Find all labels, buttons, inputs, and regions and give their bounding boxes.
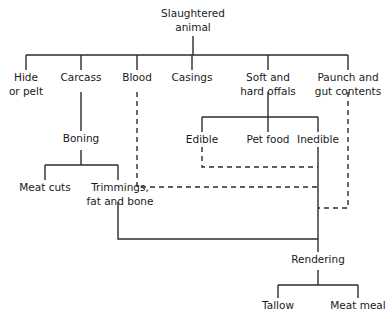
node-offals-line1: Soft and bbox=[246, 71, 290, 83]
edge-trimmings-to-rendering bbox=[118, 202, 318, 239]
node-boning-label: Boning bbox=[63, 132, 100, 144]
node-paunch-and-gut-contents: Paunch and gut contents bbox=[315, 71, 381, 97]
node-hide-or-pelt: Hide or pelt bbox=[9, 71, 43, 97]
node-paunch-line2: gut contents bbox=[315, 85, 381, 97]
node-rendering-label: Rendering bbox=[291, 253, 345, 265]
edge-group-blood-to-rendering bbox=[137, 92, 318, 187]
node-meat-meal: Meat meal bbox=[330, 299, 385, 311]
edge-paunch-dashed-to-rendering bbox=[318, 92, 348, 208]
node-carcass: Carcass bbox=[60, 71, 101, 83]
node-slaughtered-animal-line1: Slaughtered bbox=[161, 7, 225, 19]
node-trimmings-fat-and-bone: Trimmings, fat and bone bbox=[87, 181, 154, 207]
flowchart-diagram: Slaughtered animal Hide or pelt Carcass … bbox=[0, 0, 392, 319]
edge-edible-dashed-to-rendering bbox=[202, 147, 318, 167]
edge-group-trimmings-to-rendering bbox=[118, 202, 318, 239]
node-pet-food-label: Pet food bbox=[246, 133, 289, 145]
node-inedible: Inedible bbox=[297, 133, 339, 145]
node-trimmings-line1: Trimmings, bbox=[90, 181, 149, 193]
node-carcass-label: Carcass bbox=[60, 71, 101, 83]
node-blood: Blood bbox=[122, 71, 152, 83]
node-hide-or-pelt-line2: or pelt bbox=[9, 85, 43, 97]
node-meat-cuts-label: Meat cuts bbox=[19, 181, 70, 193]
node-trimmings-line2: fat and bone bbox=[87, 195, 154, 207]
node-hide-or-pelt-line1: Hide bbox=[14, 71, 38, 83]
node-tallow-label: Tallow bbox=[261, 299, 294, 311]
node-slaughtered-animal-line2: animal bbox=[175, 21, 211, 33]
flowchart-canvas: Slaughtered animal Hide or pelt Carcass … bbox=[0, 0, 392, 319]
edge-group-edible-to-rendering bbox=[202, 147, 318, 167]
edge-group-boning-children bbox=[45, 150, 118, 180]
node-meat-meal-label: Meat meal bbox=[330, 299, 385, 311]
node-slaughtered-animal: Slaughtered animal bbox=[161, 7, 225, 33]
node-edible: Edible bbox=[186, 133, 218, 145]
node-casings-label: Casings bbox=[172, 71, 213, 83]
node-casings: Casings bbox=[172, 71, 213, 83]
edge-group-level1-bus bbox=[26, 55, 348, 70]
node-edible-label: Edible bbox=[186, 133, 218, 145]
node-blood-label: Blood bbox=[122, 71, 152, 83]
edge-group-rendering-children bbox=[278, 270, 358, 298]
edge-blood-dashed-to-rendering bbox=[137, 92, 318, 187]
node-rendering: Rendering bbox=[291, 253, 345, 265]
node-pet-food: Pet food bbox=[246, 133, 289, 145]
edge-group-paunch-to-rendering bbox=[318, 92, 348, 208]
edge-group-offals-children bbox=[202, 92, 318, 132]
node-boning: Boning bbox=[63, 132, 100, 144]
node-paunch-line1: Paunch and bbox=[317, 71, 378, 83]
node-meat-cuts: Meat cuts bbox=[19, 181, 70, 193]
node-offals-line2: hard offals bbox=[240, 85, 296, 97]
node-inedible-label: Inedible bbox=[297, 133, 339, 145]
node-soft-and-hard-offals: Soft and hard offals bbox=[240, 71, 296, 97]
node-tallow: Tallow bbox=[261, 299, 294, 311]
